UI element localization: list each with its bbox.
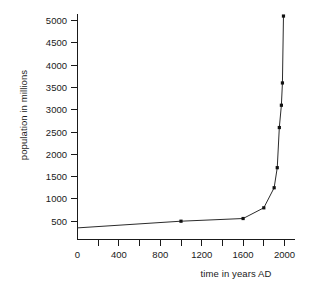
y-tick-label: 1000 bbox=[46, 193, 67, 204]
x-axis-title: time in years AD bbox=[201, 268, 272, 279]
data-point bbox=[262, 206, 265, 209]
x-tick-label: 2000 bbox=[274, 249, 295, 260]
y-tick-label: 2500 bbox=[46, 127, 67, 138]
x-tick-label: 800 bbox=[152, 249, 168, 260]
y-tick-label: 500 bbox=[51, 216, 67, 227]
y-tick-label: 3500 bbox=[46, 82, 67, 93]
y-tick-label: 4500 bbox=[46, 37, 67, 48]
y-tick-label: 4000 bbox=[46, 60, 67, 71]
data-point bbox=[276, 166, 279, 169]
x-tick-label: 0 bbox=[75, 249, 80, 260]
y-tick-label: 1500 bbox=[46, 171, 67, 182]
data-point bbox=[278, 126, 281, 129]
y-axis-title: population in millions bbox=[18, 70, 29, 161]
population-growth-chart: 5000 4500 4000 3500 3000 2500 2000 1500 … bbox=[0, 0, 314, 297]
y-tick-label: 3000 bbox=[46, 104, 67, 115]
data-point bbox=[281, 81, 284, 84]
y-tick-label: 2000 bbox=[46, 149, 67, 160]
x-tick-label: 400 bbox=[111, 249, 127, 260]
x-tick-label: 1200 bbox=[191, 249, 212, 260]
data-point bbox=[280, 104, 283, 107]
x-tick-label: 1600 bbox=[233, 249, 254, 260]
data-point bbox=[282, 14, 285, 17]
data-point bbox=[242, 217, 245, 220]
data-point bbox=[179, 220, 182, 223]
y-tick-label: 5000 bbox=[46, 15, 67, 26]
chart-svg: 5000 4500 4000 3500 3000 2500 2000 1500 … bbox=[0, 0, 314, 297]
data-point bbox=[273, 186, 276, 189]
